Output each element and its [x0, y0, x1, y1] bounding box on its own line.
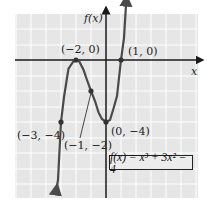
- equation-text: f(x) = x³ + 3x² − 4: [110, 151, 192, 175]
- point-neg1-neg2: [88, 88, 93, 93]
- point-label-neg1-neg2: (−1, −2): [64, 140, 112, 151]
- y-axis-label: f(x): [84, 13, 103, 24]
- function-graph: f(x) x (−2, 0) (1, 0) (−1, −2) (0, −4) (…: [0, 0, 213, 213]
- point-label-neg2-0: (−2, 0): [61, 44, 100, 55]
- point-neg3-neg4: [58, 119, 63, 124]
- point-label-1-0: (1, 0): [128, 46, 158, 57]
- equation-box: f(x) = x³ + 3x² − 4: [109, 155, 193, 170]
- point-label-neg3-neg4: (−3, −4): [17, 130, 65, 141]
- point-1-0: [118, 57, 123, 62]
- point-0-neg4: [103, 119, 108, 124]
- point-label-0-neg4: (0, −4): [111, 126, 150, 137]
- x-axis-label: x: [191, 66, 197, 77]
- graph-canvas: [0, 0, 213, 213]
- point-neg2-0: [73, 57, 78, 62]
